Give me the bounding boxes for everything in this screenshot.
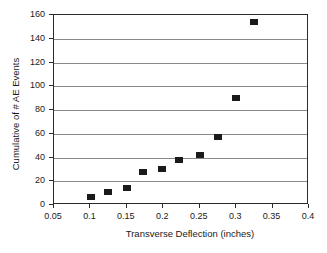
data-point <box>104 189 112 195</box>
gridline <box>54 181 307 182</box>
y-tick-mark <box>49 38 53 39</box>
y-tick-mark <box>49 133 53 134</box>
x-tick-mark <box>89 204 90 208</box>
y-tick-label: 100 <box>30 81 45 90</box>
x-tick-mark <box>199 204 200 208</box>
gridline <box>54 134 307 135</box>
data-point <box>232 95 240 101</box>
y-tick-label: 40 <box>35 152 45 161</box>
y-tick-label: 60 <box>35 128 45 137</box>
y-tick-label: 140 <box>30 33 45 42</box>
gridline <box>54 110 307 111</box>
x-tick-mark <box>126 204 127 208</box>
y-tick-label: 120 <box>30 57 45 66</box>
y-tick-label: 80 <box>35 105 45 114</box>
y-tick-mark <box>49 14 53 15</box>
gridline <box>54 63 307 64</box>
y-tick-mark <box>49 180 53 181</box>
x-tick-label: 0.3 <box>229 212 242 221</box>
data-point <box>123 185 131 191</box>
y-tick-mark <box>49 62 53 63</box>
scatter-chart: 020406080100120140160 Cumulative of # AE… <box>0 0 327 253</box>
x-tick-label: 0.1 <box>83 212 96 221</box>
data-point <box>139 169 147 175</box>
y-tick-label: 20 <box>35 176 45 185</box>
gridline <box>54 86 307 87</box>
y-tick-mark <box>49 109 53 110</box>
y-tick-mark <box>49 85 53 86</box>
data-point <box>175 157 183 163</box>
y-axis-title: Cumulative of # AE Events <box>11 24 21 204</box>
plot-area <box>53 14 308 204</box>
x-axis: 0.050.10.150.20.250.30.350.4 <box>0 204 327 230</box>
x-tick-label: 0.35 <box>263 212 281 221</box>
data-point <box>87 194 95 200</box>
x-tick-mark <box>162 204 163 208</box>
x-tick-mark <box>272 204 273 208</box>
data-point <box>214 134 222 140</box>
data-point <box>250 19 258 25</box>
x-tick-label: 0.4 <box>302 212 315 221</box>
y-tick-mark <box>49 157 53 158</box>
x-tick-mark <box>235 204 236 208</box>
x-tick-label: 0.25 <box>190 212 208 221</box>
gridline <box>54 39 307 40</box>
x-tick-label: 0.15 <box>117 212 135 221</box>
x-axis-title: Transverse Deflection (inches) <box>0 228 327 239</box>
x-tick-label: 0.2 <box>156 212 169 221</box>
data-point <box>196 152 204 158</box>
data-point <box>158 166 166 172</box>
x-tick-mark <box>308 204 309 208</box>
x-tick-label: 0.05 <box>44 212 62 221</box>
x-tick-mark <box>53 204 54 208</box>
y-tick-label: 160 <box>30 10 45 19</box>
